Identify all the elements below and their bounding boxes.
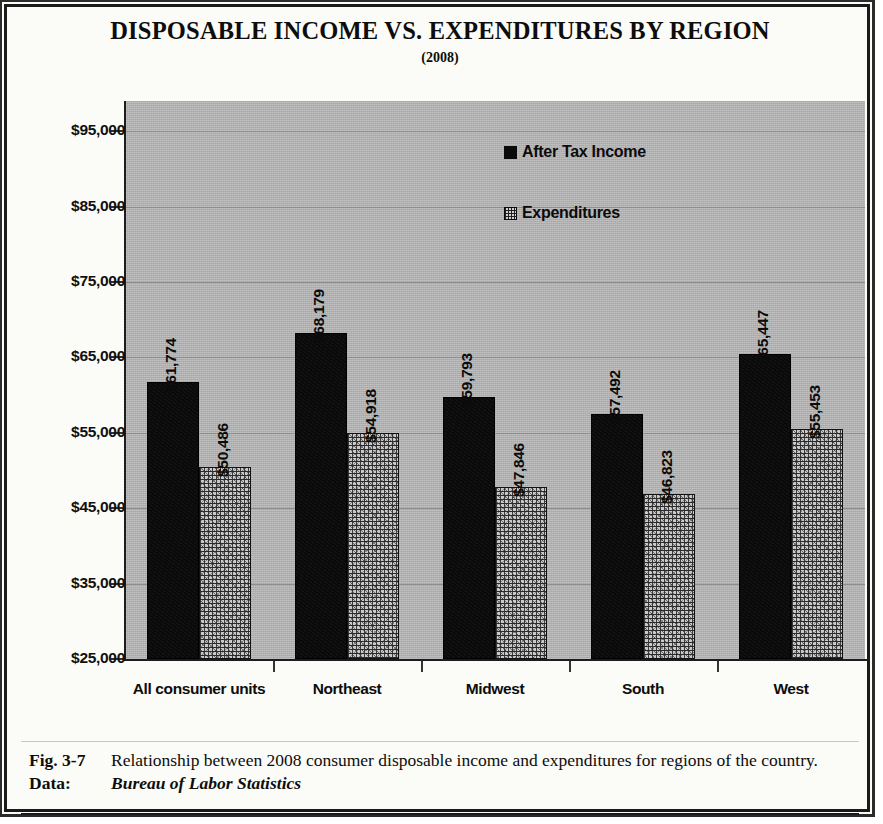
bar-value-label: $54,918 xyxy=(362,389,380,443)
caption-divider xyxy=(21,741,859,742)
x-axis-category-label: West xyxy=(717,680,865,698)
x-axis-tick xyxy=(421,661,423,672)
bar-expenditures xyxy=(643,494,695,659)
plot-area xyxy=(125,101,865,659)
bar-value-label: $47,846 xyxy=(510,443,528,497)
bar-value-label: $65,447 xyxy=(754,310,772,364)
legend-entry-expenditures: Expenditures xyxy=(504,204,646,222)
legend-label-income: After Tax Income xyxy=(522,143,646,161)
x-axis-tick xyxy=(717,661,719,672)
figure-caption: Fig. 3-7 Relationship between 2008 consu… xyxy=(29,749,857,796)
gridline xyxy=(125,207,865,208)
caption-bottom-divider xyxy=(21,813,859,815)
bar-value-label: $55,453 xyxy=(806,385,824,439)
gridline xyxy=(125,282,865,283)
y-axis-tick-label: $55,000 xyxy=(29,423,125,441)
x-axis-category-label: South xyxy=(569,680,717,698)
bar-after-tax-income xyxy=(591,414,643,659)
caption-data-source: Bureau of Labor Statistics xyxy=(111,772,857,795)
x-axis-category-label: All consumer units xyxy=(125,680,273,698)
bar-expenditures xyxy=(791,429,843,659)
bar-after-tax-income xyxy=(295,333,347,659)
caption-figure-number: Fig. 3-7 xyxy=(29,749,111,772)
bar-after-tax-income xyxy=(739,354,791,659)
y-axis-tick-label: $45,000 xyxy=(29,498,125,516)
legend: After Tax Income Expenditures xyxy=(504,143,646,265)
bar-expenditures xyxy=(199,467,251,659)
caption-data-label: Data: xyxy=(29,772,111,795)
bar-value-label: $68,179 xyxy=(310,289,328,343)
bar-expenditures xyxy=(495,487,547,659)
legend-swatch-icon-expenditures xyxy=(504,207,517,220)
bar-after-tax-income xyxy=(147,382,199,659)
bar-value-label: $50,486 xyxy=(214,423,232,477)
legend-entry-income: After Tax Income xyxy=(504,143,646,161)
y-axis-tick-label: $75,000 xyxy=(29,272,125,290)
gridline xyxy=(125,131,865,132)
x-axis-tick xyxy=(273,661,275,672)
y-axis-tick-label: $35,000 xyxy=(29,574,125,592)
caption-main-row: Fig. 3-7 Relationship between 2008 consu… xyxy=(29,749,857,772)
chart-title: DISPOSABLE INCOME VS. EXPENDITURES BY RE… xyxy=(7,17,873,45)
x-axis-category-label: Northeast xyxy=(273,680,421,698)
y-axis-tick-label: $95,000 xyxy=(29,121,125,139)
caption-data-row: Data: Bureau of Labor Statistics xyxy=(29,772,857,795)
y-axis-tick-label: $65,000 xyxy=(29,347,125,365)
bar-value-label: $46,823 xyxy=(658,451,676,505)
bar-value-label: $59,793 xyxy=(458,353,476,407)
bar-value-label: $57,492 xyxy=(606,370,624,424)
bar-after-tax-income xyxy=(443,397,495,659)
chart-subtitle: (2008) xyxy=(7,50,873,66)
legend-swatch-icon-income xyxy=(504,146,517,159)
x-axis-category-label: Midwest xyxy=(421,680,569,698)
figure-frame: DISPOSABLE INCOME VS. EXPENDITURES BY RE… xyxy=(4,4,870,812)
legend-label-expenditures: Expenditures xyxy=(522,204,620,222)
y-axis-tick-label: $25,000 xyxy=(29,649,125,667)
bar-value-label: $61,774 xyxy=(162,338,180,392)
y-axis-tick-label: $85,000 xyxy=(29,197,125,215)
caption-description: Relationship between 2008 consumer dispo… xyxy=(111,749,857,772)
y-axis-tick-layer: $25,000$35,000$45,000$55,000$65,000$75,0… xyxy=(7,7,125,824)
x-axis-tick xyxy=(569,661,571,672)
bar-expenditures xyxy=(347,433,399,659)
x-axis-line xyxy=(125,659,867,661)
